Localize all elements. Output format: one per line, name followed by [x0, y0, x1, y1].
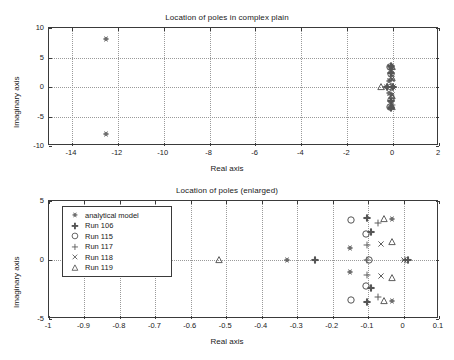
data-point-marker [379, 214, 390, 225]
x-tick-mark [439, 316, 440, 319]
x-tick-mark [210, 143, 211, 146]
legend-marker-icon [67, 252, 83, 262]
y-tick-label: 0 [18, 82, 44, 91]
x-tick-mark [226, 201, 227, 204]
y-tick-label: 5 [18, 52, 44, 61]
legend-marker-icon [67, 242, 83, 252]
x-tick-mark [301, 28, 302, 31]
x-tick-mark [191, 316, 192, 319]
legend-item[interactable]: Run 115 [67, 231, 166, 242]
x-tick-mark [84, 316, 85, 319]
y-tick-mark [436, 146, 439, 147]
x-tick-label: -0.1 [361, 321, 374, 330]
x-tick-mark [368, 316, 369, 319]
data-point-marker [360, 229, 371, 240]
x-tick-label: -0.6 [183, 321, 196, 330]
data-point-marker [376, 239, 387, 250]
data-point-marker [387, 73, 398, 84]
legend-item[interactable]: analytical model [67, 210, 166, 221]
x-tick-mark [120, 201, 121, 204]
data-point-marker [379, 295, 390, 306]
legend-item[interactable]: Run 118 [67, 252, 166, 263]
x-tick-label: -0.9 [77, 321, 90, 330]
y-tick-mark [436, 117, 439, 118]
grid-line-vertical [210, 28, 211, 144]
x-tick-mark [301, 143, 302, 146]
x-axis-label-top: Real axis [0, 164, 454, 173]
x-tick-mark [297, 201, 298, 204]
y-tick-mark [49, 58, 52, 59]
x-tick-label: -4 [297, 148, 304, 157]
legend[interactable]: analytical modelRun 106Run 115Run 117Run… [62, 206, 172, 277]
x-tick-label: -0.3 [290, 321, 303, 330]
x-tick-mark [255, 143, 256, 146]
data-point-marker [398, 255, 409, 266]
legend-item[interactable]: Run 106 [67, 221, 166, 232]
y-tick-mark [49, 201, 52, 202]
legend-item[interactable]: Run 119 [67, 263, 166, 274]
x-tick-label: -14 [66, 148, 77, 157]
x-tick-mark [439, 201, 440, 204]
x-tick-mark [393, 28, 394, 31]
x-tick-mark [226, 316, 227, 319]
x-tick-label: -12 [111, 148, 122, 157]
data-point-marker [101, 129, 112, 140]
grid-line-vertical [255, 28, 256, 144]
x-tick-label: -1 [45, 321, 52, 330]
figure-root: Location of poles in complex plain Imagi… [0, 0, 454, 360]
x-tick-mark [164, 143, 165, 146]
y-tick-mark [436, 87, 439, 88]
y-tick-mark [436, 260, 439, 261]
x-tick-label: -0.2 [325, 321, 338, 330]
x-tick-mark [164, 28, 165, 31]
x-tick-mark [404, 201, 405, 204]
x-tick-label: -0.4 [254, 321, 267, 330]
data-point-marker [362, 270, 373, 281]
x-tick-label: 0.1 [433, 321, 443, 330]
grid-line-vertical [301, 28, 302, 144]
x-tick-label: -8 [205, 148, 212, 157]
x-tick-label: -0.8 [112, 321, 125, 330]
x-tick-mark [439, 28, 440, 31]
data-point-marker [362, 212, 373, 223]
x-tick-mark [297, 316, 298, 319]
data-point-marker [281, 255, 292, 266]
x-tick-mark [262, 316, 263, 319]
x-tick-label: 0 [390, 148, 394, 157]
x-tick-label: -2 [343, 148, 350, 157]
legend-item-label: analytical model [85, 211, 139, 220]
grid-line-vertical [191, 201, 192, 317]
grid-line-vertical [164, 28, 165, 144]
grid-line-horizontal [49, 117, 437, 118]
x-tick-mark [333, 201, 334, 204]
data-point-marker [346, 214, 357, 225]
y-tick-mark [436, 58, 439, 59]
grid-line-vertical [118, 28, 119, 144]
grid-line-vertical [72, 28, 73, 144]
data-point-marker [386, 102, 397, 113]
legend-marker-icon [67, 231, 83, 241]
data-point-marker [386, 61, 397, 72]
y-tick-mark [49, 319, 52, 320]
data-point-marker [346, 295, 357, 306]
x-tick-mark [347, 28, 348, 31]
y-tick-label: 0 [18, 255, 44, 264]
data-point-marker [387, 90, 398, 101]
legend-item-label: Run 119 [85, 263, 113, 272]
x-tick-label: -10 [157, 148, 168, 157]
y-tick-label: -5 [18, 111, 44, 120]
legend-item[interactable]: Run 117 [67, 242, 166, 253]
legend-item-label: Run 106 [85, 221, 113, 230]
y-tick-mark [49, 28, 52, 29]
y-tick-label: -5 [18, 314, 44, 323]
chart-panel-bottom: Location of poles (enlarged) Imaginary a… [0, 180, 454, 360]
data-point-marker [344, 243, 355, 254]
grid-line-vertical [262, 201, 263, 317]
x-tick-mark [368, 201, 369, 204]
y-axis-label-bottom: Imaginary axis [12, 256, 21, 308]
x-tick-mark [347, 143, 348, 146]
data-point-marker [376, 82, 387, 93]
y-tick-mark [436, 201, 439, 202]
grid-line-vertical [347, 28, 348, 144]
x-tick-mark [393, 143, 394, 146]
